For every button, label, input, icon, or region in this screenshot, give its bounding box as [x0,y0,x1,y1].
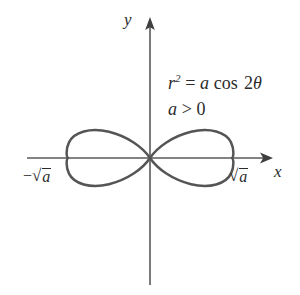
figure-container: y x r2=acos2θ a>0 −√a √a [0,0,300,295]
radical-sign-icon: √ [229,166,239,185]
intercept-negative-sqrt: √a [32,167,51,185]
radical-sign-icon: √ [32,166,42,185]
intercept-negative-radicand: a [42,168,52,185]
equation-coefficient: a [200,73,209,93]
condition-variable: a [168,99,177,119]
x-axis-label: x [274,163,282,180]
intercept-positive-sqrt: √a [229,167,248,185]
condition-value: 0 [197,99,206,119]
equation-cos-function: cos [214,73,238,93]
equation-argument-number: 2 [244,73,253,93]
intercept-label-positive: √a [229,167,248,185]
equation-equals-sign: = [185,73,195,93]
intercept-negative-sign: − [23,167,32,184]
lemniscate-plot [0,0,300,295]
intercept-positive-radicand: a [239,168,249,185]
condition-relation: > [182,99,192,119]
equation-annotation: r2=acos2θ [168,74,262,92]
equation-lhs-base: r [168,73,175,93]
equation-theta-symbol: θ [253,73,262,93]
condition-annotation: a>0 [168,100,206,118]
y-axis-label: y [124,11,132,28]
equation-lhs-exponent: 2 [175,72,181,84]
intercept-label-negative: −√a [23,167,51,185]
